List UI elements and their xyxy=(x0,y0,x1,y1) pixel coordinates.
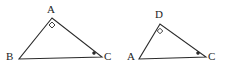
triangle-abc-outline xyxy=(19,18,102,59)
triangle-adc xyxy=(139,24,206,59)
vertex-label-triangle-right-d: D xyxy=(155,9,163,20)
right-angle-marker-d xyxy=(157,28,163,34)
right-angle-marker-a xyxy=(49,22,55,28)
geometry-figure: ABCDAC xyxy=(0,0,227,70)
vertex-label-triangle-left-b: B xyxy=(6,51,13,62)
triangle-adc-outline xyxy=(139,24,206,59)
vertex-label-triangle-right-c: C xyxy=(208,51,215,62)
vertex-label-triangle-left-a: A xyxy=(47,4,55,15)
figure-canvas xyxy=(0,0,227,70)
angle-dot-marker-c xyxy=(197,52,200,55)
vertex-label-triangle-right-a: A xyxy=(127,51,135,62)
vertex-label-triangle-left-c: C xyxy=(104,51,111,62)
triangles-layer xyxy=(19,18,206,59)
triangle-abc xyxy=(19,18,102,59)
angle-dot-marker-c xyxy=(93,52,96,55)
